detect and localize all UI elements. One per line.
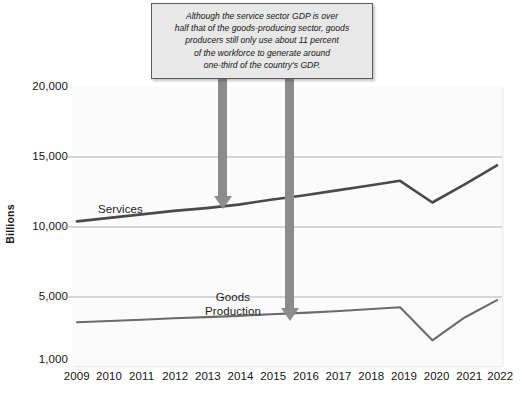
callout-line-2: half that of the goods-producing sector,… [160,22,364,34]
series-label-services: Services [98,203,143,215]
y-tick-label: 15,000 [6,150,68,162]
callout-line-1: Although the service sector GDP is over [160,10,364,22]
x-tick-label: 2011 [129,370,154,382]
x-tick-label: 2020 [424,370,450,382]
series-label-goods-production: Goods Production [200,291,266,318]
y-axis-tick-labels: 20,000 15,000 10,000 5,000 1,000 [0,0,68,400]
series-label-goods-line2: Production [200,305,266,319]
callout-line-4: of the workforce to generate around [160,47,364,59]
x-tick-label: 2016 [293,370,319,382]
y-tick-label: 20,000 [6,80,68,92]
y-tick-label: 5,000 [6,290,68,302]
callout-line-5: one-third of the country's GDP. [160,59,364,71]
x-tick-label: 2017 [326,370,352,382]
x-tick-label: 2015 [260,370,286,382]
x-tick-label: 2021 [456,370,482,382]
x-tick-label: 2018 [358,370,384,382]
callout-note: Although the service sector GDP is over … [151,3,373,79]
x-tick-label: 2013 [195,370,221,382]
x-tick-label: 2019 [391,370,417,382]
y-tick-label: 10,000 [6,220,68,232]
y-tick-label: 1,000 [6,353,68,365]
x-tick-label: 2010 [96,370,122,382]
x-tick-label: 2012 [162,370,188,382]
x-tick-label: 2014 [228,370,254,382]
x-axis-tick-labels: 2009 2010 2011 2012 2013 2014 2015 2016 … [72,370,502,390]
series-label-goods-line1: Goods [200,291,266,305]
x-tick-label: 2009 [64,370,90,382]
gdp-line-chart: Billions 20,000 15,000 10,000 5,000 1,00… [0,0,522,400]
callout-line-3: producers still only use about 11 percen… [160,34,364,46]
x-tick-label: 2022 [487,370,513,382]
